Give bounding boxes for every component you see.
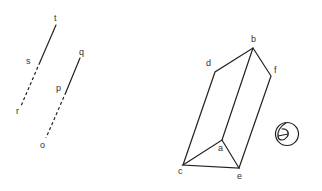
- line-tsr-dashed: [21, 62, 40, 106]
- label-b: b: [251, 34, 256, 44]
- label-c: c: [178, 166, 183, 176]
- line-qpo-solid: [66, 58, 80, 92]
- label-q: q: [79, 47, 84, 57]
- label-t: t: [54, 13, 57, 23]
- line-qpo-dashed: [46, 92, 66, 138]
- inner-chord: [278, 134, 288, 136]
- diagram: t s r q p o b d f a c e: [0, 0, 322, 191]
- line-tsr-solid: [40, 25, 56, 62]
- label-e: e: [237, 171, 242, 181]
- edge-b-a: [222, 48, 253, 140]
- label-s: s: [26, 56, 31, 66]
- prism: [183, 48, 271, 168]
- label-p: p: [56, 83, 61, 93]
- label-r: r: [16, 106, 19, 116]
- prism-outline-top: [183, 48, 271, 168]
- circle-figure: [276, 123, 299, 146]
- label-f: f: [274, 65, 277, 75]
- label-d: d: [206, 58, 211, 68]
- line-qpo: [46, 58, 80, 138]
- label-o: o: [40, 140, 45, 150]
- label-a: a: [218, 143, 223, 153]
- face-cae: [183, 140, 239, 168]
